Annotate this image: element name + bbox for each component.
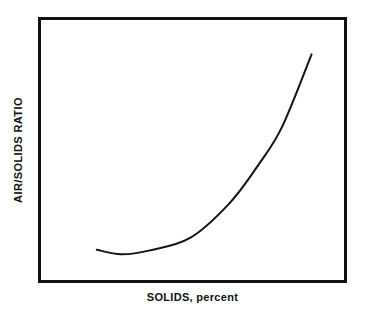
plot-frame [38, 17, 347, 283]
y-axis-label: AIR/SOLIDS RATIO [12, 97, 24, 203]
x-axis-label: SOLIDS, percent [38, 291, 347, 303]
chart-title: Effect of Air to Solids Ratio on Float S… [0, 0, 377, 2]
